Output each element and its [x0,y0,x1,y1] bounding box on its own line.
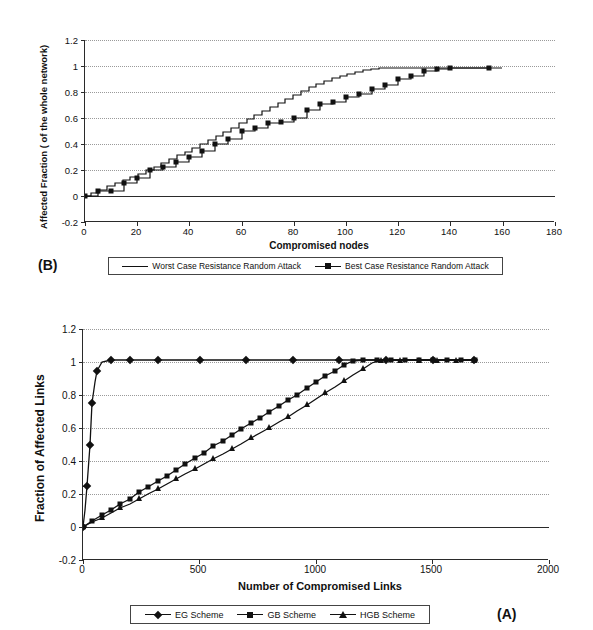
panel-a-legend-entry-eg: EG Scheme [145,610,224,620]
panel-a-x-axis-label: Number of Compromised Links [210,580,430,592]
panel-a-ytick-0.8: 0.8 [52,390,76,401]
panel-b-xtick-60: 60 [231,226,251,237]
panel-b-series-svg [85,40,555,222]
panel-b-xtick-80: 80 [283,226,303,237]
diamond-marker-icon [145,611,171,619]
panel-a-ytick-0: 0 [52,522,76,533]
panel-a-ytick-1: 1 [52,357,76,368]
panel-a-xtick-500: 500 [183,564,213,575]
panel-b-xtick-180: 180 [544,226,564,237]
panel-a-tag: (A) [497,606,516,622]
panel-a-ytick-0.6: 0.6 [52,423,76,434]
panel-a-series-gb-line [83,360,474,527]
panel-a-xtick-1000: 1000 [299,564,331,575]
panel-b-xtick-20: 20 [126,226,146,237]
panel-b-ytick-1.2: 1.2 [56,35,78,46]
panel-b-xtick-140: 140 [439,226,459,237]
panel-b-legend: Worst Case Resistance Random Attack Best… [108,257,503,275]
panel-b-y-axis-label: Affected Fraction ( of the whole network… [38,45,49,229]
panel-a-legend-label-gb: GB Scheme [267,610,316,620]
panel-a-series-svg [83,329,549,560]
panel-a-plot-area [82,329,548,560]
panel-b-ytick-0.2: 0.2 [56,165,78,176]
panel-b-x-axis-label: Compromised nodes [224,240,414,251]
panel-b-legend-entry-best-case: Best Case Resistance Random Attack [315,261,489,271]
panel-b-ytick-0: 0 [56,191,78,202]
panel-b-legend-label-worst-case: Worst Case Resistance Random Attack [152,261,301,271]
panel-a-xtick-0: 0 [72,564,92,575]
panel-b-series-worst-case-line [85,68,502,196]
line-marker-icon [122,262,148,270]
panel-b-ytick-0.4: 0.4 [56,139,78,150]
panel-a-y-axis-label: Fraction of Affected Links [33,374,47,522]
chart-panel-b: Affected Fraction ( of the whole network… [0,14,593,282]
panel-b-xtick-120: 120 [387,226,407,237]
panel-a-xtick-2000: 2000 [532,564,564,575]
panel-b-xtick-160: 160 [492,226,512,237]
square-marker-icon [315,262,341,270]
panel-a-series-gb-markers [83,358,478,530]
chart-panel-a: Fraction of Affected Links 1.2 1 0.8 0.6… [0,300,593,630]
panel-a-series-hgb-line [83,360,474,527]
triangle-marker-icon [330,611,356,619]
panel-b-xtick-40: 40 [178,226,198,237]
panel-b-legend-entry-worst-case: Worst Case Resistance Random Attack [122,261,301,271]
panel-a-ytick-0.4: 0.4 [52,456,76,467]
panel-b-xtick-100: 100 [335,226,355,237]
panel-a-legend: EG Scheme GB Scheme HGB Scheme [130,605,430,624]
panel-b-legend-label-best-case: Best Case Resistance Random Attack [345,261,489,271]
panel-b-tag: (B) [38,257,57,273]
panel-a-ytick-0.2: 0.2 [52,489,76,500]
panel-b-ytick-0.8: 0.8 [56,87,78,98]
panel-a-legend-entry-hgb: HGB Scheme [330,610,415,620]
panel-a-series-hgb-markers [83,357,477,529]
panel-b-xtick-0: 0 [74,226,94,237]
panel-a-series-eg-line [83,360,474,527]
panel-b-series-best-case-line [85,68,489,196]
panel-a-series-eg-markers [83,356,478,531]
panel-b-ytick-0.6: 0.6 [56,113,78,124]
panel-a-legend-label-hgb: HGB Scheme [360,610,415,620]
panel-a-legend-entry-gb: GB Scheme [237,610,316,620]
panel-b-ytick-1: 1 [56,61,78,72]
panel-b-plot-area [84,40,554,222]
panel-a-xtick-1500: 1500 [415,564,447,575]
square-marker-icon [237,611,263,619]
figure-container: Affected Fraction ( of the whole network… [0,0,593,630]
panel-a-ytick-1.2: 1.2 [52,324,76,335]
panel-a-legend-label-eg: EG Scheme [175,610,224,620]
